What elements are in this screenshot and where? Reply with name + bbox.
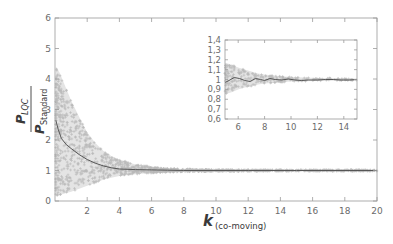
svg-text:1: 1: [216, 75, 221, 85]
svg-text:1,3: 1,3: [207, 45, 221, 55]
svg-text:12: 12: [312, 122, 323, 132]
chart-figure: 2468101214161820 0123456 68101214 0,60,7…: [0, 0, 393, 244]
svg-text:0,7: 0,7: [207, 104, 221, 114]
svg-text:18: 18: [339, 206, 351, 216]
svg-text:2: 2: [45, 135, 51, 145]
svg-text:0,6: 0,6: [207, 114, 221, 124]
svg-text:2: 2: [84, 206, 90, 216]
svg-text:5: 5: [45, 44, 51, 54]
svg-text:1: 1: [45, 166, 51, 176]
svg-text:12: 12: [242, 206, 253, 216]
svg-text:4: 4: [117, 206, 123, 216]
svg-text:8: 8: [262, 122, 267, 132]
svg-text:1,4: 1,4: [207, 35, 221, 45]
svg-text:20: 20: [371, 206, 383, 216]
svg-text:14: 14: [338, 122, 349, 132]
svg-text:6: 6: [235, 122, 240, 132]
svg-text:0,9: 0,9: [207, 84, 221, 94]
svg-text:0,8: 0,8: [207, 94, 221, 104]
svg-text:0: 0: [45, 196, 51, 206]
svg-text:16: 16: [307, 206, 319, 216]
svg-text:14: 14: [275, 206, 287, 216]
svg-text:1,2: 1,2: [207, 55, 221, 65]
svg-text:1,1: 1,1: [207, 65, 221, 75]
inset-plot: 68101214 0,60,70,80,911,11,21,31,4: [207, 35, 357, 132]
y-axis-label: P LQC P Standard: [13, 86, 49, 134]
svg-text:10: 10: [286, 122, 297, 132]
svg-text:6: 6: [45, 13, 51, 23]
y-axis-label-denominator-subscript: Standard: [40, 89, 49, 125]
x-axis-label: k (co-moving): [203, 212, 266, 231]
svg-text:4: 4: [45, 74, 51, 84]
x-axis-label-k: k: [203, 212, 214, 230]
svg-text:6: 6: [149, 206, 155, 216]
y-axis-label-numerator-subscript: LQC: [21, 98, 30, 115]
svg-text:8: 8: [181, 206, 187, 216]
x-axis-label-subscript: (co-moving): [215, 221, 266, 231]
